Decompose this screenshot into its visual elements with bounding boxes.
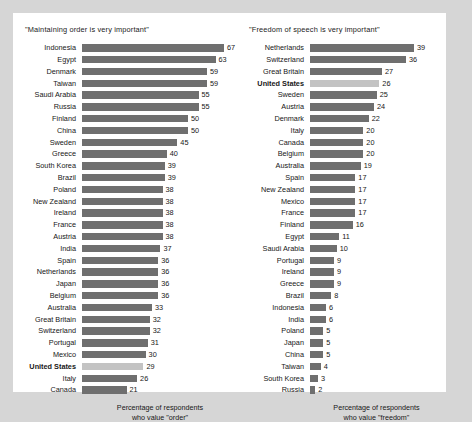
bar-row: Belgium36	[25, 290, 237, 302]
bar-row-label: Mexico	[249, 198, 310, 205]
bar-row: Japan5	[249, 337, 446, 349]
bar-track: 26	[310, 77, 446, 89]
bar-value-label: 21	[127, 386, 138, 393]
bar-track: 26	[82, 372, 237, 384]
bar-track: 30	[82, 349, 237, 361]
bar-rect	[82, 209, 163, 216]
bar-rect	[82, 292, 158, 299]
bar-track: 2	[310, 384, 446, 396]
bar-row-label: Russia	[25, 103, 82, 110]
bar-value-label: 10	[337, 245, 348, 252]
bar-row-label: Finland	[249, 221, 310, 228]
bar-rect	[310, 91, 377, 98]
bar-row-label: China	[25, 127, 82, 134]
bar-rect	[82, 150, 167, 157]
bar-rect	[82, 268, 158, 275]
axis-caption-order: Percentage of respondents who value "ord…	[25, 403, 237, 422]
bar-row: Greece40	[25, 148, 237, 160]
bar-value-label: 38	[163, 198, 174, 205]
bar-value-label: 45	[177, 139, 188, 146]
bar-track: 39	[82, 160, 237, 172]
bar-row: Egypt63	[25, 54, 237, 66]
bar-row-label: Egypt	[249, 233, 310, 240]
bar-rect	[310, 257, 334, 264]
bar-value-label: 63	[216, 56, 227, 63]
bar-rect	[82, 56, 216, 63]
bar-rect	[82, 91, 199, 98]
bar-value-label: 6	[326, 304, 333, 311]
bar-rect	[310, 44, 414, 51]
bar-track: 36	[82, 290, 237, 302]
bar-row-label: Italy	[25, 375, 82, 382]
bar-track: 32	[82, 325, 237, 337]
bar-row: Ireland9	[249, 266, 446, 278]
bar-rect	[82, 139, 177, 146]
bar-row-label: Saudi Arabia	[25, 91, 82, 98]
bar-row: Saudi Arabia55	[25, 89, 237, 101]
bar-rect	[82, 375, 137, 382]
bar-track: 17	[310, 195, 446, 207]
bar-row: Portugal9	[249, 254, 446, 266]
bar-row-label: Poland	[249, 327, 310, 334]
bar-rect	[82, 80, 207, 87]
bar-value-label: 19	[361, 162, 372, 169]
bar-value-label: 27	[382, 68, 393, 75]
bar-rect	[82, 304, 152, 311]
bar-row-label: Canada	[25, 386, 82, 393]
bar-value-label: 26	[379, 80, 390, 87]
bar-track: 9	[310, 266, 446, 278]
bar-value-label: 33	[152, 304, 163, 311]
bar-rect	[310, 292, 331, 299]
bar-row-label: Ireland	[25, 209, 82, 216]
bar-row-label: Poland	[25, 186, 82, 193]
bar-row: Sweden45	[25, 136, 237, 148]
bar-track: 27	[310, 66, 446, 78]
bar-rect	[310, 209, 355, 216]
bar-track: 38	[82, 219, 237, 231]
bar-row-label: Spain	[249, 174, 310, 181]
bar-value-label: 40	[167, 150, 178, 157]
bar-row: Great Britain27	[249, 66, 446, 78]
bar-track: 20	[310, 125, 446, 137]
bar-row-label: Great Britain	[249, 68, 310, 75]
bar-track: 59	[82, 77, 237, 89]
bar-rect	[310, 150, 363, 157]
bar-rect	[82, 44, 224, 51]
bar-track: 8	[310, 290, 446, 302]
bar-row-label: Egypt	[25, 56, 82, 63]
bar-row-label: Mexico	[25, 351, 82, 358]
bar-rect	[82, 115, 188, 122]
bar-row-label: Denmark	[25, 68, 82, 75]
bar-track: 36	[310, 54, 446, 66]
bar-rect	[310, 245, 337, 252]
bar-value-label: 55	[199, 91, 210, 98]
chart-title-freedom: "Freedom of speech is very important"	[249, 25, 446, 34]
bar-value-label: 25	[377, 91, 388, 98]
bar-rect	[310, 233, 339, 240]
bar-row: Poland38	[25, 184, 237, 196]
bar-value-label: 29	[143, 363, 154, 370]
bar-rect	[310, 186, 355, 193]
bar-value-label: 24	[374, 103, 385, 110]
bar-row: South Korea39	[25, 160, 237, 172]
bar-value-label: 5	[323, 339, 330, 346]
bar-row-label: Brazil	[25, 174, 82, 181]
bar-value-label: 31	[148, 339, 159, 346]
bar-track: 16	[310, 219, 446, 231]
bar-rect	[82, 316, 150, 323]
bar-row: Finland50	[25, 113, 237, 125]
bar-value-label: 39	[165, 162, 176, 169]
bar-row: Spain36	[25, 254, 237, 266]
bar-track: 17	[310, 184, 446, 196]
bar-rect	[82, 174, 165, 181]
bar-rect	[310, 103, 374, 110]
bar-value-label: 3	[318, 375, 325, 382]
bar-track: 67	[82, 42, 237, 54]
bar-row: Canada21	[25, 384, 237, 396]
bar-rect	[310, 198, 355, 205]
bar-row-label: Australia	[249, 162, 310, 169]
bar-row-label: Indonesia	[25, 44, 82, 51]
bar-track: 6	[310, 302, 446, 314]
bar-track: 50	[82, 113, 237, 125]
bar-value-label: 50	[188, 115, 199, 122]
